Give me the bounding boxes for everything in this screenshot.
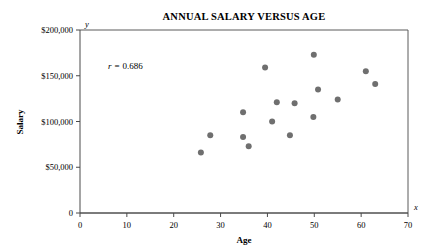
x-tick-label: 20: [169, 220, 178, 230]
y-tick-label: $200,000: [41, 25, 73, 35]
data-point: [335, 97, 341, 103]
x-tick-label: 70: [404, 220, 413, 230]
data-point: [287, 132, 293, 138]
data-point-group: [198, 52, 378, 156]
data-point: [240, 134, 246, 140]
x-tick-label: 30: [216, 220, 225, 230]
y-axis-ticks: 0$50,000$100,000$150,000$200,000: [41, 25, 80, 218]
correlation-equals: =: [115, 61, 120, 71]
correlation-symbol: r: [108, 61, 112, 71]
data-point: [269, 119, 275, 125]
x-axis-variable-label: x: [413, 202, 418, 212]
data-point: [262, 65, 268, 71]
x-tick-label: 40: [263, 220, 272, 230]
data-point: [240, 109, 246, 115]
data-point: [207, 132, 213, 138]
x-tick-label: 60: [357, 220, 366, 230]
data-point: [363, 68, 369, 74]
chart-canvas: ANNUAL SALARY VERSUS AGE 0$50,000$100,00…: [0, 0, 438, 251]
chart-title: ANNUAL SALARY VERSUS AGE: [163, 11, 326, 22]
data-point: [310, 114, 316, 120]
data-point: [372, 81, 378, 87]
salary-vs-age-scatter-figure: ANNUAL SALARY VERSUS AGE 0$50,000$100,00…: [0, 0, 438, 251]
y-axis-title: Salary: [15, 109, 25, 135]
correlation-value: 0.686: [123, 61, 144, 71]
x-tick-label: 50: [310, 220, 319, 230]
y-axis-variable-label: y: [84, 19, 89, 29]
x-tick-label: 10: [123, 220, 132, 230]
data-point: [311, 52, 317, 58]
plot-frame: [80, 30, 408, 213]
plot-border: [80, 30, 408, 213]
data-point: [292, 100, 298, 106]
data-point: [274, 99, 280, 105]
data-point: [246, 143, 252, 149]
correlation-annotation: r=0.686: [108, 61, 143, 71]
x-axis-ticks: 010203040506070: [78, 213, 412, 230]
y-tick-label: $100,000: [41, 117, 73, 127]
y-tick-label: $150,000: [41, 71, 73, 81]
y-tick-label: 0: [69, 208, 73, 218]
data-point: [315, 86, 321, 92]
x-axis-title: Age: [237, 235, 252, 245]
y-tick-label: $50,000: [45, 162, 73, 172]
x-tick-label: 0: [78, 220, 82, 230]
data-point: [198, 150, 204, 156]
